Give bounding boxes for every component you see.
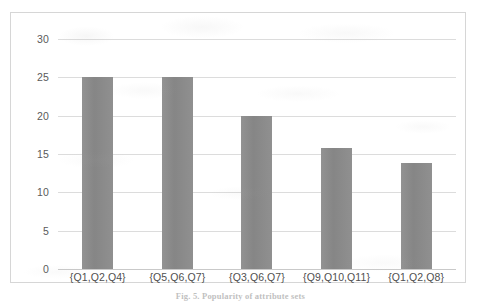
x-axis-category-labels: {Q1,Q2,Q4}{Q5,Q6,Q7}{Q3,Q6,Q7}{Q9,Q10,Q1…	[58, 271, 456, 283]
chart-plot-area: 302520151050	[58, 39, 456, 269]
x-axis-category-label: {Q9,Q10,Q11}	[297, 271, 377, 283]
bar	[82, 77, 113, 269]
bar-slot	[138, 39, 218, 269]
x-axis-category-label: {Q1,Q2,Q4}	[58, 271, 138, 283]
x-axis-category-label: {Q1,Q2,Q8}	[376, 271, 456, 283]
bar	[401, 163, 432, 269]
bar	[321, 148, 352, 269]
figure-caption: Fig. 5. Popularity of attribute sets	[0, 291, 481, 302]
axis-baseline	[58, 269, 456, 270]
y-axis-tick-label: 20	[37, 110, 49, 122]
y-axis-tick-label: 10	[37, 186, 49, 198]
bar	[162, 77, 193, 269]
x-axis-category-label: {Q5,Q6,Q7}	[138, 271, 218, 283]
y-axis-tick-label: 5	[43, 225, 49, 237]
x-axis-category-label: {Q3,Q6,Q7}	[217, 271, 297, 283]
bar-slot	[58, 39, 138, 269]
y-axis-tick-label: 25	[37, 71, 49, 83]
bar-slot	[217, 39, 297, 269]
y-axis-tick-label: 0	[43, 263, 49, 275]
bar	[241, 116, 272, 269]
y-axis-tick-label: 30	[37, 33, 49, 45]
bar-series	[58, 39, 456, 269]
bar-slot	[297, 39, 377, 269]
figure-frame: 302520151050 {Q1,Q2,Q4}{Q5,Q6,Q7}{Q3,Q6,…	[10, 12, 466, 283]
bar-slot	[376, 39, 456, 269]
y-axis-tick-label: 15	[37, 148, 49, 160]
